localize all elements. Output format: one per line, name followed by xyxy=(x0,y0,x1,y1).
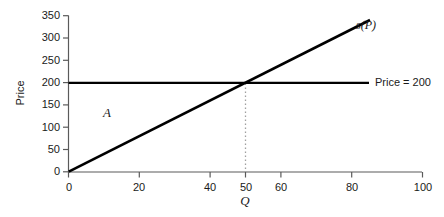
ytick-label-150: 150 xyxy=(28,98,60,110)
ytick-label-100: 100 xyxy=(28,121,60,133)
xtick-label-0: 0 xyxy=(54,181,84,193)
price-line-label: Price = 200 xyxy=(375,76,431,88)
ytick-label-50: 50 xyxy=(28,143,60,155)
xtick-label-100: 100 xyxy=(407,181,439,193)
ytick-label-350: 350 xyxy=(28,9,60,21)
supply-curve-chart: 350 300 250 200 150 100 50 0 0 20 40 50 … xyxy=(0,0,444,217)
supply-curve xyxy=(69,20,370,172)
xtick-label-50: 50 xyxy=(231,181,261,193)
y-axis-title: Price xyxy=(14,71,26,115)
xtick-label-20: 20 xyxy=(124,181,154,193)
x-axis-title: Q xyxy=(233,193,257,209)
ytick-label-300: 300 xyxy=(28,31,60,43)
x-axis-ticks xyxy=(69,172,423,178)
ytick-label-250: 250 xyxy=(28,54,60,66)
area-label-a: A xyxy=(103,105,111,121)
supply-curve-label: s(P) xyxy=(356,18,376,33)
y-axis-ticks xyxy=(63,16,69,172)
ytick-label-0: 0 xyxy=(28,165,60,177)
xtick-label-40: 40 xyxy=(195,181,225,193)
xtick-label-80: 80 xyxy=(337,181,367,193)
ytick-label-200: 200 xyxy=(28,76,60,88)
xtick-label-60: 60 xyxy=(266,181,296,193)
